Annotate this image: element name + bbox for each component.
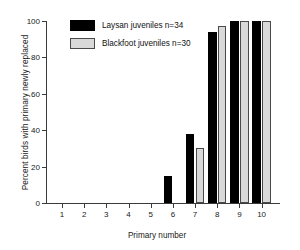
y-tick-mark xyxy=(42,167,46,168)
x-tick-label: 1 xyxy=(60,210,64,219)
y-tick-label: 100 xyxy=(27,17,40,26)
legend-label: Laysan juveniles n=34 xyxy=(102,21,183,30)
x-tick-mark xyxy=(262,204,263,208)
bar xyxy=(240,21,249,203)
bar xyxy=(218,26,227,203)
bar-chart: Percent birds with primary newly replace… xyxy=(0,0,300,250)
y-tick-label: 20 xyxy=(31,162,40,171)
x-tick-mark xyxy=(217,204,218,208)
bar xyxy=(164,176,173,203)
x-tick-label: 2 xyxy=(82,210,86,219)
x-tick-label: 6 xyxy=(171,210,175,219)
x-tick-label: 8 xyxy=(215,210,219,219)
y-tick-mark xyxy=(42,203,46,204)
x-tick-mark xyxy=(173,204,174,208)
legend-item: Laysan juveniles n=34 xyxy=(70,17,191,33)
y-tick-label: 80 xyxy=(31,53,40,62)
y-tick-mark xyxy=(42,57,46,58)
legend-swatch xyxy=(70,38,95,49)
y-tick-label: 40 xyxy=(31,126,40,135)
legend-item: Blackfoot juveniles n=30 xyxy=(70,35,191,51)
x-tick-mark xyxy=(151,204,152,208)
y-axis-label: Percent birds with primary newly replace… xyxy=(21,18,30,208)
x-tick-mark xyxy=(106,204,107,208)
bar xyxy=(262,21,271,203)
x-tick-mark xyxy=(195,204,196,208)
y-tick-label: 60 xyxy=(31,89,40,98)
bar xyxy=(196,148,205,203)
y-tick-label: 0 xyxy=(36,199,40,208)
x-axis-label: Primary number xyxy=(33,231,281,240)
bar xyxy=(186,134,195,203)
x-tick-label: 7 xyxy=(193,210,197,219)
y-tick-mark xyxy=(42,130,46,131)
bar xyxy=(230,21,239,203)
y-tick-mark xyxy=(42,94,46,95)
x-tick-mark xyxy=(62,204,63,208)
y-tick-mark xyxy=(42,21,46,22)
bar xyxy=(252,21,261,203)
x-tick-label: 5 xyxy=(148,210,152,219)
legend: Laysan juveniles n=34Blackfoot juveniles… xyxy=(70,17,191,53)
x-tick-label: 4 xyxy=(126,210,130,219)
x-tick-label: 3 xyxy=(104,210,108,219)
x-tick-label: 9 xyxy=(237,210,241,219)
x-tick-mark xyxy=(129,204,130,208)
bar xyxy=(208,32,217,203)
x-tick-mark xyxy=(84,204,85,208)
legend-swatch xyxy=(70,20,95,31)
x-tick-mark xyxy=(239,204,240,208)
y-axis-line xyxy=(46,21,47,204)
x-tick-label: 10 xyxy=(257,210,266,219)
legend-label: Blackfoot juveniles n=30 xyxy=(102,39,191,48)
x-axis-line xyxy=(46,203,280,204)
